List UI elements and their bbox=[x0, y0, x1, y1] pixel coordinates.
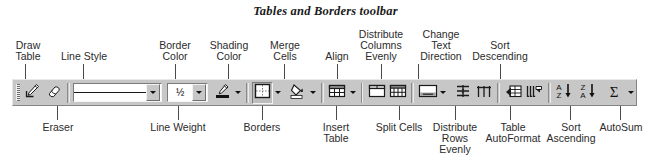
autosum-dropdown-arrow[interactable] bbox=[626, 82, 636, 104]
change-text-direction-button[interactable] bbox=[503, 82, 524, 104]
callout-line-weight: Line Weight bbox=[141, 122, 215, 133]
leader-eraser bbox=[57, 106, 58, 120]
callout-distribute-rows-evenly: Distribute Rows Evenly bbox=[425, 122, 485, 156]
borders-dropdown-arrow[interactable] bbox=[273, 82, 283, 104]
autosum-button[interactable]: Σ bbox=[602, 82, 626, 104]
distribute-columns-evenly-button[interactable] bbox=[473, 82, 494, 104]
eraser-button[interactable] bbox=[43, 82, 64, 104]
toolbar-separator bbox=[548, 83, 551, 103]
sort-ascending-icon: A Z bbox=[555, 82, 577, 103]
toolbar-separator bbox=[321, 83, 324, 103]
leader-split-cells bbox=[399, 106, 400, 120]
border-color-icon bbox=[213, 82, 232, 104]
leader-draw-table bbox=[25, 64, 26, 79]
leader-distribute-rows-evenly bbox=[455, 106, 456, 120]
eraser-icon bbox=[44, 82, 63, 104]
leader-sort-descending bbox=[500, 64, 501, 79]
callout-table-autoformat: Table AutoFormat bbox=[482, 122, 544, 144]
insert-table-icon bbox=[328, 83, 346, 103]
toolbar-separator bbox=[497, 83, 500, 103]
leader-border-color bbox=[175, 64, 176, 79]
distribute-rows-icon bbox=[454, 83, 472, 103]
callout-change-text-direction: Change Text Direction bbox=[412, 29, 470, 63]
svg-text:Z: Z bbox=[557, 91, 562, 99]
leader-align bbox=[337, 64, 338, 79]
sort-descending-icon: Z A bbox=[579, 82, 601, 103]
toolbar-separator bbox=[246, 83, 249, 103]
svg-text:A: A bbox=[580, 91, 586, 99]
line-weight-dropdown-arrow[interactable] bbox=[192, 84, 206, 101]
leader-distribute-columns-evenly bbox=[381, 64, 382, 79]
shading-color-button[interactable] bbox=[287, 82, 308, 104]
pencil-icon bbox=[23, 82, 42, 104]
toolbar-grip[interactable] bbox=[14, 83, 21, 102]
shading-color-dropdown-arrow[interactable] bbox=[308, 82, 318, 104]
callout-borders: Borders bbox=[232, 122, 292, 133]
leader-table-autoformat bbox=[510, 106, 511, 120]
figure-root: Tables and Borders toolbar Draw Table Li… bbox=[0, 0, 651, 167]
figure-title: Tables and Borders toolbar bbox=[0, 4, 651, 19]
table-autoformat-icon bbox=[525, 83, 544, 103]
callout-shading-color: Shading Color bbox=[196, 40, 262, 62]
tables-and-borders-toolbar[interactable]: ½ bbox=[12, 79, 637, 106]
line-style-value bbox=[74, 84, 146, 101]
leader-merge-cells bbox=[284, 64, 285, 79]
split-cells-icon bbox=[389, 83, 407, 103]
callout-line-style: Line Style bbox=[48, 51, 120, 62]
line-style-preview bbox=[74, 92, 146, 93]
borders-button[interactable] bbox=[252, 82, 273, 104]
align-button[interactable] bbox=[417, 82, 438, 104]
leader-insert-table bbox=[336, 106, 337, 120]
borders-icon bbox=[254, 83, 271, 103]
toolbar-separator bbox=[411, 83, 414, 103]
leader-change-text-direction bbox=[418, 64, 419, 79]
line-style-combo[interactable] bbox=[73, 83, 162, 102]
callout-autosum: AutoSum bbox=[592, 122, 650, 133]
merge-cells-icon bbox=[368, 83, 386, 103]
draw-table-button[interactable] bbox=[22, 82, 43, 104]
insert-table-button[interactable] bbox=[327, 82, 348, 104]
split-cells-button[interactable] bbox=[387, 82, 408, 104]
leader-sort-ascending bbox=[570, 106, 571, 120]
align-icon bbox=[418, 83, 438, 103]
merge-cells-button[interactable] bbox=[366, 82, 387, 104]
leader-line-style bbox=[83, 64, 84, 79]
align-dropdown-arrow[interactable] bbox=[438, 82, 448, 104]
toolbar-separator bbox=[361, 83, 364, 103]
border-color-button[interactable] bbox=[212, 82, 233, 104]
line-style-dropdown-arrow[interactable] bbox=[146, 84, 160, 101]
toolbar-separator bbox=[67, 83, 70, 103]
distribute-columns-icon bbox=[475, 83, 493, 103]
table-autoformat-button[interactable] bbox=[524, 82, 545, 104]
line-weight-combo[interactable]: ½ bbox=[167, 83, 208, 102]
leader-line-weight bbox=[178, 106, 179, 120]
callout-eraser: Eraser bbox=[29, 122, 87, 133]
callout-insert-table: Insert Table bbox=[308, 122, 364, 144]
border-color-dropdown-arrow[interactable] bbox=[233, 82, 243, 104]
leader-borders bbox=[262, 106, 263, 120]
shading-color-icon bbox=[288, 82, 307, 104]
callout-merge-cells: Merge Cells bbox=[254, 40, 316, 62]
insert-table-dropdown-arrow[interactable] bbox=[348, 82, 358, 104]
leader-autosum bbox=[620, 106, 621, 120]
line-weight-value: ½ bbox=[168, 84, 192, 101]
callout-sort-descending: Sort Descending bbox=[464, 40, 536, 62]
autosum-icon: Σ bbox=[610, 85, 619, 100]
change-text-direction-icon bbox=[504, 83, 523, 103]
leader-shading-color bbox=[228, 64, 229, 79]
callout-distribute-columns-evenly: Distribute Columns Evenly bbox=[350, 29, 412, 63]
sort-descending-button[interactable]: Z A bbox=[578, 82, 602, 104]
sort-ascending-button[interactable]: A Z bbox=[554, 82, 578, 104]
distribute-rows-evenly-button[interactable] bbox=[452, 82, 473, 104]
callout-split-cells: Split Cells bbox=[368, 122, 430, 133]
